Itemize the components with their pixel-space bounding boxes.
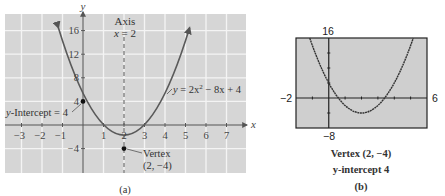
panel-a: y x 16 12 8 4 −4 −3 −2 −1 1 2 3 4 5 6 7 … — [5, 0, 256, 196]
y-intercept-label: y-Intercept = 4 — [5, 107, 69, 118]
panel-a-caption: (a) — [119, 184, 131, 196]
vertex-title-label: Vertex — [143, 148, 171, 159]
y-intercept-point — [81, 99, 86, 104]
intercept-note: y-intercept 4 — [333, 164, 390, 175]
svg-text:4: 4 — [74, 96, 80, 107]
axis-equation-label: x = 2 — [113, 27, 136, 39]
svg-text:−4: −4 — [68, 143, 80, 154]
svg-text:3: 3 — [142, 130, 147, 141]
equation-label: y = 2x2 − 8x + 4 — [172, 83, 242, 95]
svg-text:7: 7 — [224, 130, 229, 141]
y-axis-label: y — [80, 0, 86, 12]
svg-text:16: 16 — [69, 25, 80, 36]
xmax-label: 6 — [432, 92, 438, 104]
svg-text:12: 12 — [69, 49, 80, 60]
svg-text:1: 1 — [101, 130, 106, 141]
svg-text:2: 2 — [121, 130, 126, 141]
svg-text:5: 5 — [183, 130, 188, 141]
vertex-note: Vertex (2, −4) — [331, 148, 392, 160]
svg-text:−1: −1 — [55, 130, 66, 141]
svg-text:−2: −2 — [34, 130, 45, 141]
svg-text:6: 6 — [203, 130, 208, 141]
svg-text:4: 4 — [162, 130, 168, 141]
ymin-label: −8 — [323, 130, 335, 142]
xmin-label: −2 — [280, 92, 292, 104]
calculator-screen — [296, 38, 427, 128]
svg-text:8: 8 — [74, 72, 79, 83]
svg-text:−3: −3 — [14, 130, 25, 141]
figure: y x 16 12 8 4 −4 −3 −2 −1 1 2 3 4 5 6 7 … — [0, 0, 445, 196]
panel-b-caption: (b) — [355, 181, 368, 193]
vertex-point — [122, 146, 127, 151]
panel-b: 16 −8 −2 6 Vertex (2, −4) y-intercept 4 … — [280, 25, 438, 193]
ymax-label: 16 — [322, 25, 334, 37]
vertex-coords-label: (2, −4) — [143, 160, 172, 172]
axis-title-label: Axis — [115, 15, 136, 27]
x-axis-label: x — [250, 118, 256, 130]
